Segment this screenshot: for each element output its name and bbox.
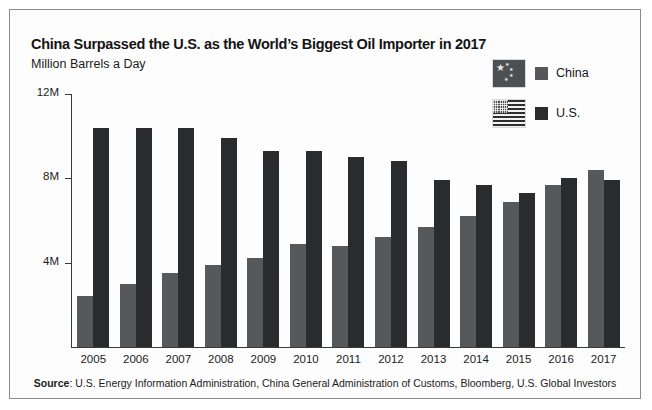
- bar-group: 2014: [455, 94, 498, 347]
- x-tick-label: 2010: [285, 353, 328, 365]
- bar-group: 2015: [497, 94, 540, 347]
- bar-us-2014[interactable]: [476, 185, 492, 347]
- bar-us-2009[interactable]: [263, 151, 279, 347]
- y-tick-8M: [65, 178, 72, 179]
- bar-china-2012[interactable]: [375, 237, 391, 347]
- page-title: China Surpassed the U.S. as the World’s …: [31, 36, 486, 52]
- bar-china-2016[interactable]: [545, 185, 561, 347]
- y-tick-label: 4M: [19, 255, 59, 267]
- bar-china-2007[interactable]: [162, 273, 178, 347]
- legend-item-china: ★ ★ ★ ★ ★ China: [492, 56, 589, 90]
- bar-china-2008[interactable]: [205, 265, 221, 347]
- bar-china-2006[interactable]: [120, 284, 136, 347]
- legend-swatch-china: [535, 67, 548, 80]
- x-tick-label: 2015: [497, 353, 540, 365]
- x-tick-label: 2007: [157, 353, 200, 365]
- bar-us-2011[interactable]: [348, 157, 364, 347]
- y-tick-12M: [65, 94, 72, 95]
- bar-china-2013[interactable]: [418, 227, 434, 347]
- bar-china-2009[interactable]: [247, 258, 263, 347]
- bar-group: 2008: [200, 94, 243, 347]
- x-tick-label: 2012: [370, 353, 413, 365]
- bar-us-2017[interactable]: [604, 180, 620, 347]
- x-tick-label: 2011: [327, 353, 370, 365]
- y-tick-label: 8M: [19, 170, 59, 182]
- bar-group: 2010: [285, 94, 328, 347]
- chart-subtitle: Million Barrels a Day: [31, 57, 146, 71]
- x-tick-label: 2006: [115, 353, 158, 365]
- bar-china-2011[interactable]: [332, 246, 348, 347]
- bar-group: 2007: [157, 94, 200, 347]
- bar-us-2006[interactable]: [136, 128, 152, 347]
- source-note: Source: U.S. Energy Information Administ…: [10, 377, 640, 389]
- bar-us-2016[interactable]: [561, 178, 577, 347]
- bar-china-2014[interactable]: [460, 216, 476, 347]
- bar-group-container: 2005200620072008200920102011201220132014…: [72, 94, 625, 347]
- bar-group: 2016: [540, 94, 583, 347]
- chart-frame: China Surpassed the U.S. as the World’s …: [9, 9, 641, 399]
- bar-us-2015[interactable]: [519, 193, 535, 347]
- bar-group: 2012: [370, 94, 413, 347]
- x-tick-label: 2013: [412, 353, 455, 365]
- x-axis: [71, 347, 625, 348]
- source-label: Source: [34, 377, 70, 389]
- bar-china-2015[interactable]: [503, 202, 519, 347]
- bar-chart-plot: 4M8M12M 20052006200720082009201020112012…: [71, 94, 625, 348]
- x-tick-label: 2016: [540, 353, 583, 365]
- bar-us-2007[interactable]: [178, 128, 194, 347]
- china-flag-icon: ★ ★ ★ ★ ★: [492, 59, 526, 88]
- bar-us-2012[interactable]: [391, 161, 407, 347]
- bar-us-2010[interactable]: [306, 151, 322, 347]
- y-tick-label: 12M: [19, 86, 59, 98]
- bar-china-2005[interactable]: [77, 296, 93, 347]
- bar-china-2017[interactable]: [588, 170, 604, 347]
- x-tick-label: 2014: [455, 353, 498, 365]
- bar-us-2005[interactable]: [93, 128, 109, 347]
- bar-group: 2006: [115, 94, 158, 347]
- bar-us-2013[interactable]: [434, 180, 450, 347]
- x-tick-label: 2005: [72, 353, 115, 365]
- bar-group: 2017: [582, 94, 625, 347]
- bar-group: 2009: [242, 94, 285, 347]
- x-tick-label: 2017: [582, 353, 625, 365]
- bar-us-2008[interactable]: [221, 138, 237, 347]
- source-text: : U.S. Energy Information Administration…: [69, 377, 616, 389]
- bar-group: 2013: [412, 94, 455, 347]
- bar-group: 2005: [72, 94, 115, 347]
- x-tick-label: 2009: [242, 353, 285, 365]
- legend-label-china: China: [556, 66, 589, 80]
- x-tick-label: 2008: [200, 353, 243, 365]
- y-tick-4M: [65, 263, 72, 264]
- bar-china-2010[interactable]: [290, 244, 306, 347]
- bar-group: 2011: [327, 94, 370, 347]
